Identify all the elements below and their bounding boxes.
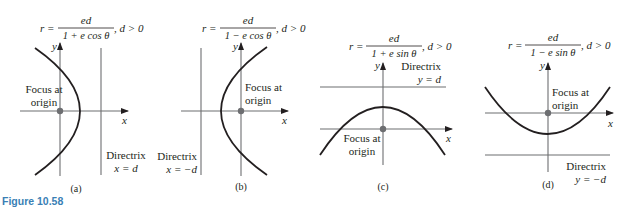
y-axis-label: y bbox=[232, 40, 238, 52]
formula-condition: , d > 0 bbox=[581, 39, 611, 51]
formula-denominator: 1 − e sin θ bbox=[531, 47, 576, 58]
directrix-label-line2: x = d bbox=[113, 162, 138, 174]
figure-caption: Figure 10.58 bbox=[2, 195, 63, 207]
panel-label: (d) bbox=[542, 179, 554, 191]
x-axis-label: x bbox=[445, 132, 451, 144]
focus-label-line1: Focus at bbox=[26, 83, 63, 95]
x-axis-label: x bbox=[607, 117, 613, 129]
focus-point bbox=[380, 126, 386, 132]
directrix-label-line2: y = d bbox=[417, 73, 442, 85]
focus-point bbox=[57, 108, 63, 114]
x-axis-label: x bbox=[121, 114, 127, 126]
focus-point bbox=[545, 110, 551, 116]
formula-lhs: r = bbox=[40, 22, 54, 34]
directrix-label-line2: y = −d bbox=[574, 173, 606, 185]
y-axis-label: y bbox=[374, 59, 380, 71]
panel-d: r = ed 1 − e sin θ , d > 0 y x Focus at … bbox=[485, 31, 613, 191]
panel-label: (c) bbox=[377, 181, 388, 193]
x-axis-label: x bbox=[281, 114, 287, 126]
panel-label: (a) bbox=[70, 183, 81, 195]
figure-canvas: r = ed 1 + e cos θ , d > 0 y x Focus at … bbox=[0, 0, 630, 210]
formula-a: r = ed 1 + e cos θ , d > 0 bbox=[40, 14, 144, 41]
directrix-label-line1: Directrix bbox=[106, 149, 146, 161]
focus-label-line2: origin bbox=[31, 96, 58, 108]
formula-condition: , d > 0 bbox=[114, 22, 144, 34]
formula-numerator: ed bbox=[243, 14, 254, 26]
formula-lhs: r = bbox=[508, 39, 522, 51]
formula-denominator: 1 + e cos θ bbox=[63, 30, 110, 41]
formula-condition: , d > 0 bbox=[276, 22, 306, 34]
formula-numerator: ed bbox=[389, 32, 400, 44]
formula-lhs: r = bbox=[349, 40, 363, 52]
focus-label-line1: Focus at bbox=[344, 132, 381, 144]
focus-point bbox=[238, 108, 244, 114]
formula-denominator: 1 − e cos θ bbox=[225, 30, 272, 41]
focus-label-line2: origin bbox=[349, 145, 376, 157]
formula-numerator: ed bbox=[81, 14, 92, 26]
formula-numerator: ed bbox=[548, 31, 559, 43]
focus-label-line2: origin bbox=[552, 99, 579, 111]
y-axis-label: y bbox=[51, 40, 57, 52]
formula-lhs: r = bbox=[202, 22, 216, 34]
formula-d: r = ed 1 − e sin θ , d > 0 bbox=[508, 31, 611, 58]
panel-b: r = ed 1 − e cos θ , d > 0 y x Focus at … bbox=[157, 14, 306, 193]
directrix-label-line1: Directrix bbox=[401, 60, 441, 72]
panel-label: (b) bbox=[235, 181, 247, 193]
directrix-label-line1: Directrix bbox=[566, 160, 606, 172]
y-axis-label: y bbox=[539, 59, 545, 71]
formula-condition: , d > 0 bbox=[422, 40, 452, 52]
focus-label-line1: Focus at bbox=[552, 86, 589, 98]
formula-c: r = ed 1 + e sin θ , d > 0 bbox=[349, 32, 452, 59]
focus-label-line1: Focus at bbox=[245, 81, 282, 93]
panel-a: r = ed 1 + e cos θ , d > 0 y x Focus at … bbox=[20, 14, 146, 195]
formula-b: r = ed 1 − e cos θ , d > 0 bbox=[202, 14, 306, 41]
directrix-label-line1: Directrix bbox=[157, 150, 197, 162]
formula-denominator: 1 + e sin θ bbox=[372, 48, 417, 59]
panel-c: r = ed 1 + e sin θ , d > 0 y x Focus at … bbox=[320, 32, 452, 193]
focus-label-line2: origin bbox=[245, 94, 272, 106]
directrix-label-line2: x = −d bbox=[165, 163, 197, 175]
